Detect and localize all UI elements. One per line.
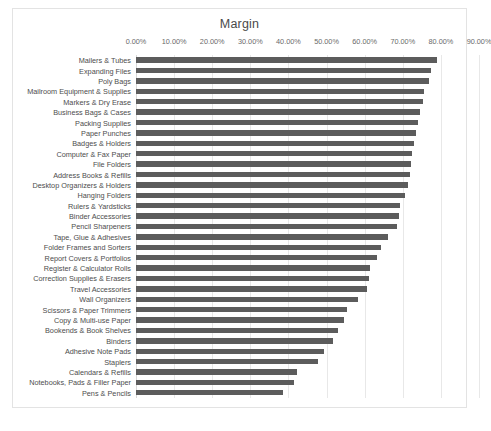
bar: [136, 120, 418, 125]
category-label: Desktop Organizers & Holders: [32, 180, 131, 189]
bar-row: Pencil Sharpeners: [136, 221, 479, 231]
bar: [136, 68, 431, 73]
bar-row: Mailers & Tubes: [136, 55, 479, 65]
gridline-90: [479, 55, 480, 398]
chart-container: Margin 0.00%10.00%20.00%30.00%40.00%50.0…: [12, 8, 467, 408]
bar-row: Poly Bags: [136, 76, 479, 86]
bar-row: Wall Organizers: [136, 294, 479, 304]
category-label: Packing Supplies: [75, 118, 131, 127]
category-label: Staplers: [104, 357, 131, 366]
bar: [136, 245, 381, 250]
bar: [136, 172, 410, 177]
bar: [136, 328, 338, 333]
x-tick-label: 90.00%: [467, 37, 491, 46]
bar: [136, 78, 429, 83]
bar: [136, 193, 405, 198]
category-label: Folder Frames and Sorters: [44, 243, 131, 252]
chart-title: Margin: [13, 17, 466, 31]
bar: [136, 224, 397, 229]
bar-row: Computer & Fax Paper: [136, 149, 479, 159]
bar-row: Paper Punches: [136, 128, 479, 138]
category-label: Mailers & Tubes: [79, 56, 131, 65]
bar: [136, 182, 408, 187]
category-label: Computer & Fax Paper: [56, 149, 131, 158]
bar-row: Report Covers & Portfolios: [136, 252, 479, 262]
bar: [136, 369, 297, 374]
bar: [136, 349, 324, 354]
category-label: Scissors & Paper Trimmers: [43, 305, 131, 314]
category-label: Binders: [106, 336, 131, 345]
category-label: Badges & Holders: [72, 139, 131, 148]
category-label: Bookends & Book Shelves: [45, 326, 131, 335]
bar-row: Address Books & Refills: [136, 169, 479, 179]
bar-row: Register & Calculator Rolls: [136, 263, 479, 273]
bar-row: Pens & Pencils: [136, 388, 479, 398]
bar-series: Mailers & TubesExpanding FilesPoly BagsM…: [136, 55, 479, 398]
category-label: Pencil Sharpeners: [71, 222, 131, 231]
bar-row: Packing Supplies: [136, 117, 479, 127]
x-tick-label: 60.00%: [352, 37, 377, 46]
bar: [136, 286, 367, 291]
bar-row: Bookends & Book Shelves: [136, 325, 479, 335]
category-label: Correction Supplies & Erasers: [33, 274, 131, 283]
bar-row: Tape, Glue & Adhesives: [136, 232, 479, 242]
category-label: Expanding Files: [79, 66, 131, 75]
x-tick-label: 40.00%: [276, 37, 301, 46]
category-label: Markers & Dry Erase: [63, 97, 131, 106]
x-axis-tick-labels: 0.00%10.00%20.00%30.00%40.00%50.00%60.00…: [136, 37, 479, 51]
bar-row: Expanding Files: [136, 65, 479, 75]
x-tick-label: 20.00%: [200, 37, 225, 46]
bar: [136, 161, 411, 166]
bar: [136, 99, 423, 104]
category-label: Business Bags & Cases: [53, 108, 131, 117]
category-label: Copy & Multi-use Paper: [54, 316, 131, 325]
bar: [136, 234, 388, 239]
bar: [136, 130, 416, 135]
bar-row: Staplers: [136, 356, 479, 366]
category-label: Mailroom Equipment & Supplies: [27, 87, 131, 96]
bar-row: Calendars & Refills: [136, 367, 479, 377]
bar: [136, 265, 370, 270]
category-label: Address Books & Refills: [53, 170, 131, 179]
bar-row: Desktop Organizers & Holders: [136, 180, 479, 190]
category-label: Travel Accessories: [70, 284, 131, 293]
bar-row: Markers & Dry Erase: [136, 97, 479, 107]
category-label: Paper Punches: [81, 128, 131, 137]
x-tick-label: 50.00%: [314, 37, 339, 46]
category-label: Wall Organizers: [79, 295, 131, 304]
bar-row: Badges & Holders: [136, 138, 479, 148]
category-label: Tape, Glue & Adhesives: [54, 232, 131, 241]
category-label: Rulers & Yardsticks: [68, 201, 131, 210]
category-label: Pens & Pencils: [82, 388, 131, 397]
bar: [136, 57, 437, 62]
bar-row: Binder Accessories: [136, 211, 479, 221]
category-label: Calendars & Refills: [69, 368, 131, 377]
x-tick-label: 10.00%: [162, 37, 187, 46]
bar-row: Scissors & Paper Trimmers: [136, 304, 479, 314]
category-label: Register & Calculator Rolls: [44, 264, 131, 273]
x-tick-label: 30.00%: [238, 37, 263, 46]
bar-row: Rulers & Yardsticks: [136, 201, 479, 211]
bar: [136, 390, 283, 395]
bar-row: Business Bags & Cases: [136, 107, 479, 117]
bar-row: Notebooks, Pads & Filler Paper: [136, 377, 479, 387]
x-tick-label: 70.00%: [390, 37, 415, 46]
bar: [136, 89, 424, 94]
bar: [136, 151, 412, 156]
plot-area: Mailers & TubesExpanding FilesPoly BagsM…: [136, 55, 479, 398]
bar: [136, 255, 377, 260]
category-label: Report Covers & Portfolios: [45, 253, 131, 262]
bar-row: Travel Accessories: [136, 284, 479, 294]
category-label: Hanging Folders: [77, 191, 131, 200]
bar: [136, 380, 294, 385]
bar-row: Mailroom Equipment & Supplies: [136, 86, 479, 96]
x-tick-label: 0.00%: [126, 37, 147, 46]
bar: [136, 297, 358, 302]
x-tick-label: 80.00%: [429, 37, 454, 46]
bar: [136, 317, 344, 322]
category-label: Poly Bags: [98, 76, 131, 85]
bar-row: File Folders: [136, 159, 479, 169]
bar: [136, 338, 333, 343]
bar: [136, 203, 400, 208]
bar: [136, 213, 399, 218]
